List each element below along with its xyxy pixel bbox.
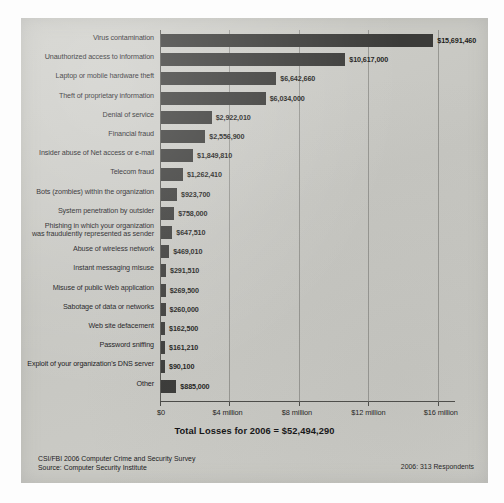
bar-row: $90,100 bbox=[160, 358, 455, 376]
bar bbox=[161, 360, 165, 373]
bar bbox=[161, 72, 276, 85]
chart-figure-panel: $15,691,460$10,617,000$6,642,660$6,034,0… bbox=[21, 18, 488, 483]
category-label: Sabotage of data or networks bbox=[0, 303, 154, 312]
bar-row: $6,034,000 bbox=[160, 90, 455, 108]
bar bbox=[161, 226, 172, 239]
bar-value-label: $758,000 bbox=[178, 207, 207, 220]
total-losses-annotation: Total Losses for 2006 = $52,494,290 bbox=[21, 426, 488, 436]
x-tickmark bbox=[438, 402, 439, 406]
bar bbox=[161, 130, 205, 143]
bar bbox=[161, 34, 433, 47]
category-label: Misuse of public Web application bbox=[0, 284, 154, 293]
bar-value-label: $90,100 bbox=[169, 360, 194, 373]
bar-value-label: $1,262,410 bbox=[187, 168, 222, 181]
bar-value-label: $162,500 bbox=[169, 322, 198, 335]
category-label: System penetration by outsider bbox=[0, 207, 154, 216]
bar bbox=[161, 168, 183, 181]
bar-row: $2,922,010 bbox=[160, 109, 455, 127]
category-label: Denial of service bbox=[0, 111, 154, 120]
category-label: Phishing in which your organization was … bbox=[0, 222, 154, 239]
bar-chart: $15,691,460$10,617,000$6,642,660$6,034,0… bbox=[21, 18, 488, 483]
bar-value-label: $6,642,660 bbox=[280, 72, 315, 85]
category-label: Financial fraud bbox=[0, 130, 154, 139]
bar-row: $469,010 bbox=[160, 243, 455, 261]
bar bbox=[161, 284, 166, 297]
bar-row: $161,210 bbox=[160, 339, 455, 357]
x-tick-label: $16 million bbox=[424, 408, 458, 417]
category-label: Password sniffing bbox=[0, 341, 154, 350]
bar-row: $162,500 bbox=[160, 320, 455, 338]
plot-area: $15,691,460$10,617,000$6,642,660$6,034,0… bbox=[160, 30, 455, 402]
x-tickmark bbox=[368, 402, 369, 406]
bar-row: $923,700 bbox=[160, 186, 455, 204]
respondents-caption: 2006: 313 Respondents bbox=[401, 463, 474, 470]
bar-row: $260,000 bbox=[160, 301, 455, 319]
bar bbox=[161, 111, 212, 124]
bar-row: $647,510 bbox=[160, 224, 455, 242]
bar bbox=[161, 53, 345, 66]
bar-value-label: $2,922,010 bbox=[216, 111, 251, 124]
bar bbox=[161, 341, 165, 354]
x-tick-label: $4 million bbox=[212, 408, 242, 417]
bar-row: $15,691,460 bbox=[160, 32, 455, 50]
bar bbox=[161, 149, 193, 162]
bar-row: $269,500 bbox=[160, 282, 455, 300]
category-label: Abuse of wireless network bbox=[0, 245, 154, 254]
bar-row: $6,642,660 bbox=[160, 70, 455, 88]
x-axis-line bbox=[160, 401, 455, 402]
bar-value-label: $10,617,000 bbox=[349, 53, 388, 66]
category-label: Theft of proprietary information bbox=[0, 92, 154, 101]
category-label: Telecom fraud bbox=[0, 168, 154, 177]
bar-row: $291,510 bbox=[160, 262, 455, 280]
bar bbox=[161, 207, 174, 220]
category-label: Bots (zombies) within the organization bbox=[0, 188, 154, 197]
x-tickmark bbox=[299, 402, 300, 406]
bar-row: $758,000 bbox=[160, 205, 455, 223]
bar-value-label: $469,010 bbox=[173, 245, 202, 258]
bar-value-label: $2,556,900 bbox=[209, 130, 244, 143]
bar-row: $2,556,900 bbox=[160, 128, 455, 146]
source-caption: CSI/FBI 2006 Computer Crime and Security… bbox=[38, 454, 195, 473]
bar bbox=[161, 188, 177, 201]
bar bbox=[161, 92, 266, 105]
bar-value-label: $161,210 bbox=[169, 341, 198, 354]
bar-value-label: $6,034,000 bbox=[270, 92, 305, 105]
x-tickmark bbox=[229, 402, 230, 406]
x-tick-label: $8 million bbox=[282, 408, 312, 417]
bar bbox=[161, 264, 166, 277]
category-label: Web site defacement bbox=[0, 322, 154, 331]
bar-value-label: $1,849,810 bbox=[197, 149, 232, 162]
bar bbox=[161, 303, 166, 316]
category-label: Virus contamination bbox=[0, 34, 154, 43]
category-label: Instant messaging misuse bbox=[0, 264, 154, 273]
category-label: Laptop or mobile hardware theft bbox=[0, 72, 154, 81]
bar-row: $1,849,810 bbox=[160, 147, 455, 165]
bar-value-label: $15,691,460 bbox=[437, 34, 476, 47]
bar-row: $10,617,000 bbox=[160, 51, 455, 69]
bar bbox=[161, 322, 165, 335]
bar bbox=[161, 245, 169, 258]
x-tickmark bbox=[160, 402, 161, 406]
bar-row: $1,262,410 bbox=[160, 166, 455, 184]
bar-value-label: $923,700 bbox=[181, 188, 210, 201]
bar bbox=[161, 380, 176, 393]
bar-value-label: $885,000 bbox=[180, 380, 209, 393]
bar-value-label: $260,000 bbox=[170, 303, 199, 316]
x-tick-label: $0 bbox=[157, 408, 165, 417]
category-label: Other bbox=[0, 380, 154, 389]
category-label: Exploit of your organization's DNS serve… bbox=[0, 360, 154, 369]
bar-row: $885,000 bbox=[160, 378, 455, 396]
category-label: Unauthorized access to information bbox=[0, 53, 154, 62]
x-tick-label: $12 million bbox=[351, 408, 385, 417]
bar-value-label: $291,510 bbox=[170, 264, 199, 277]
scanned-page: $15,691,460$10,617,000$6,642,660$6,034,0… bbox=[0, 0, 504, 503]
bar-value-label: $647,510 bbox=[176, 226, 205, 239]
category-label: Insider abuse of Net access or e-mail bbox=[0, 149, 154, 158]
bar-value-label: $269,500 bbox=[170, 284, 199, 297]
